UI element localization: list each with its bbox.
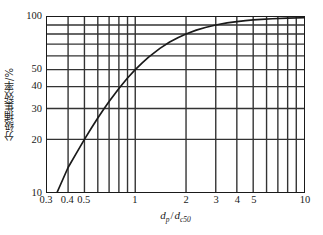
x-tick-label: 5 bbox=[251, 195, 256, 206]
x-tick-label: 1 bbox=[132, 195, 137, 206]
y-tick-label: 40 bbox=[32, 81, 43, 92]
x-axis-title: dp/dc50 bbox=[46, 209, 305, 224]
x-tick-label: 3 bbox=[213, 195, 218, 206]
y-axis-tick-labels: 1020304050100 bbox=[0, 16, 42, 193]
grade-efficiency-chart: 分级捕集效率/% 1020304050100 0.30.40.51234510 … bbox=[0, 0, 323, 235]
plot-area bbox=[46, 16, 305, 193]
x-tick-label: 0.4 bbox=[61, 195, 74, 206]
y-tick-label: 50 bbox=[32, 64, 43, 75]
x-tick-label: 0.5 bbox=[77, 195, 90, 206]
efficiency-curve bbox=[47, 17, 304, 192]
x-tick-label: 10 bbox=[300, 195, 311, 206]
x-tick-label: 4 bbox=[235, 195, 240, 206]
series-line-grade-efficiency bbox=[57, 18, 304, 192]
x-tick-label: 2 bbox=[183, 195, 188, 206]
y-tick-label: 20 bbox=[32, 134, 43, 145]
y-tick-label: 100 bbox=[26, 11, 42, 22]
y-tick-label: 30 bbox=[32, 103, 43, 114]
x-axis-denominator-sub: c50 bbox=[180, 215, 191, 224]
x-tick-label: 0.3 bbox=[39, 195, 52, 206]
